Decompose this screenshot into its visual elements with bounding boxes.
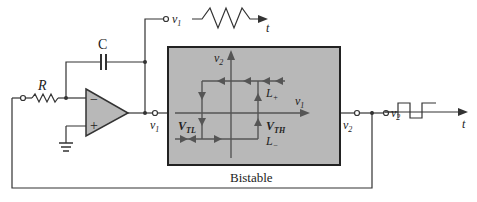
bistable-block [168, 47, 340, 165]
node-v2-terminal: v2 [391, 106, 400, 122]
capacitor [101, 54, 106, 70]
square-t-label: t [462, 117, 466, 131]
opamp-minus: − [90, 92, 98, 107]
node-v2-output: v2 [343, 118, 352, 134]
resistor-label: R [37, 78, 47, 93]
circuit-diagram: R C − + Bistable v1 v1 v2 v2 t t v2 v1 V… [0, 0, 477, 202]
opamp-plus: + [90, 118, 98, 133]
triangle-t-label: t [266, 21, 270, 35]
node-v1-top: v1 [172, 12, 181, 28]
ground-icon [59, 143, 73, 151]
bistable-label: Bistable [230, 170, 273, 185]
resistor [32, 94, 58, 102]
arrow-icon [458, 108, 468, 116]
node-v1-input: v1 [150, 118, 159, 134]
triangle-waveform [192, 8, 258, 28]
capacitor-label: C [98, 37, 107, 52]
